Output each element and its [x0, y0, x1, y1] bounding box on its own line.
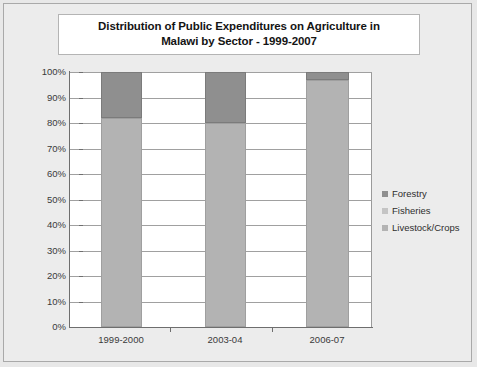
y-tick-mark — [79, 327, 83, 328]
legend-swatch-icon — [382, 191, 388, 197]
chart-title-line-1: Distribution of Public Expenditures on A… — [65, 19, 413, 34]
bar-segment-livestock-crops[interactable] — [205, 123, 246, 327]
legend-item-forestry[interactable]: Forestry — [382, 186, 477, 201]
bar-segment-forestry[interactable] — [101, 72, 142, 118]
x-tick-label-2006-07: 2006-07 — [282, 334, 372, 345]
x-tick-mark — [170, 327, 171, 332]
plot-area — [69, 72, 372, 327]
x-axis-line — [69, 327, 373, 328]
bar-segment-forestry[interactable] — [205, 72, 246, 123]
legend-item-livestock-crops[interactable]: Livestock/Crops — [382, 220, 477, 235]
chart-screenshot: Distribution of Public Expenditures on A… — [0, 0, 477, 367]
chart-legend: Forestry Fisheries Livestock/Crops — [382, 183, 477, 241]
bar-segment-livestock-crops[interactable] — [306, 80, 349, 327]
y-tick-mark — [79, 251, 83, 252]
y-tick-mark — [79, 276, 83, 277]
legend-label: Forestry — [392, 188, 427, 199]
legend-label: Livestock/Crops — [392, 222, 460, 233]
y-axis-line — [69, 71, 70, 328]
y-tick-mark — [79, 225, 83, 226]
legend-item-fisheries[interactable]: Fisheries — [382, 203, 477, 218]
bar-2006-07[interactable] — [306, 72, 349, 327]
y-tick-mark — [79, 98, 83, 99]
x-tick-mark — [272, 327, 273, 332]
bar-1999-2000[interactable] — [101, 72, 142, 327]
y-tick-mark — [79, 149, 83, 150]
x-tick-label-1999-2000: 1999-2000 — [76, 334, 166, 345]
chart-title: Distribution of Public Expenditures on A… — [58, 14, 420, 55]
bar-segment-livestock-crops[interactable] — [101, 118, 142, 327]
bar-segment-forestry[interactable] — [306, 72, 349, 80]
legend-swatch-icon — [382, 208, 388, 214]
y-axis-ticks — [14, 72, 66, 327]
y-tick-mark — [79, 302, 83, 303]
bar-2003-04[interactable] — [205, 72, 246, 327]
x-tick-label-2003-04: 2003-04 — [180, 334, 270, 345]
y-tick-mark — [79, 72, 83, 73]
y-tick-mark — [79, 123, 83, 124]
legend-swatch-icon — [382, 225, 388, 231]
chart-canvas: Distribution of Public Expenditures on A… — [0, 0, 477, 367]
chart-title-line-2: Malawi by Sector - 1999-2007 — [65, 34, 413, 49]
y-tick-mark — [79, 174, 83, 175]
legend-label: Fisheries — [392, 205, 431, 216]
y-tick-mark — [79, 200, 83, 201]
